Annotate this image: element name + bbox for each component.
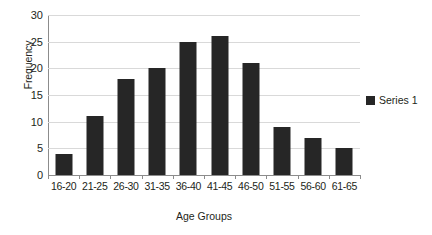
x-axis-tick-label: 46-50 xyxy=(235,180,266,192)
x-tick-mark xyxy=(235,175,236,179)
x-axis-tick-labels: 16-2021-2526-3031-3536-4041-4546-5051-55… xyxy=(48,180,360,196)
bars-group xyxy=(48,15,360,175)
bar-slot xyxy=(110,15,141,175)
x-axis-tick-label: 26-30 xyxy=(110,180,141,192)
x-axis-tick-label: 31-35 xyxy=(142,180,173,192)
bar[interactable] xyxy=(149,68,166,175)
x-axis-tick-label: 61-65 xyxy=(329,180,360,192)
y-axis-tick-label: 20 xyxy=(3,62,43,74)
x-axis-tick-label: 36-40 xyxy=(173,180,204,192)
x-tick-mark xyxy=(110,175,111,179)
x-tick-mark xyxy=(79,175,80,179)
x-tick-mark xyxy=(48,175,49,179)
bar-chart: Frequency 051015202530 16-2021-2526-3031… xyxy=(0,0,432,235)
bar[interactable] xyxy=(55,154,72,175)
x-axis-tick-label: 51-55 xyxy=(266,180,297,192)
bar[interactable] xyxy=(86,116,103,175)
bar-slot xyxy=(173,15,204,175)
y-axis-tick-label: 0 xyxy=(3,169,43,181)
y-axis-tick-label: 10 xyxy=(3,116,43,128)
y-axis-tick-label: 25 xyxy=(3,36,43,48)
bar-slot xyxy=(204,15,235,175)
x-tick-mark xyxy=(173,175,174,179)
x-tick-mark xyxy=(298,175,299,179)
bar[interactable] xyxy=(211,36,228,175)
bar-slot xyxy=(329,15,360,175)
x-tick-mark xyxy=(360,175,361,179)
x-axis-tick-label: 21-25 xyxy=(79,180,110,192)
bar-slot xyxy=(48,15,79,175)
bar[interactable] xyxy=(273,127,290,175)
y-axis-tick-label: 15 xyxy=(3,89,43,101)
x-axis-tick-label: 41-45 xyxy=(204,180,235,192)
bar-slot xyxy=(142,15,173,175)
bar[interactable] xyxy=(336,148,353,175)
bar[interactable] xyxy=(242,63,259,175)
legend-swatch-icon xyxy=(366,96,375,105)
bar[interactable] xyxy=(117,79,134,175)
plot-area: 051015202530 xyxy=(48,15,360,175)
bar[interactable] xyxy=(180,42,197,175)
x-tick-mark xyxy=(266,175,267,179)
x-tick-mark xyxy=(204,175,205,179)
y-axis-tick-label: 30 xyxy=(3,9,43,21)
x-tick-mark xyxy=(329,175,330,179)
bar-slot xyxy=(298,15,329,175)
legend: Series 1 xyxy=(366,94,418,106)
x-axis-tick-label: 56-60 xyxy=(298,180,329,192)
bar-slot xyxy=(266,15,297,175)
bar-slot xyxy=(235,15,266,175)
x-axis-tick-label: 16-20 xyxy=(48,180,79,192)
bar-slot xyxy=(79,15,110,175)
y-axis-tick-label: 5 xyxy=(3,142,43,154)
x-axis-title: Age Groups xyxy=(48,210,360,222)
legend-label: Series 1 xyxy=(379,94,418,106)
x-tick-mark xyxy=(142,175,143,179)
bar[interactable] xyxy=(305,138,322,175)
